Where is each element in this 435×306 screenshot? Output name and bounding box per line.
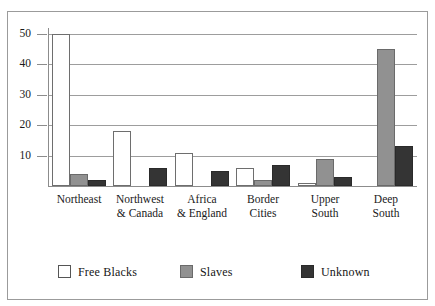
- bar: [377, 49, 395, 186]
- legend-label: Slaves: [200, 265, 233, 280]
- legend-swatch-unknown: [301, 265, 314, 278]
- x-axis-line: [48, 186, 417, 187]
- bar: [52, 34, 70, 186]
- gridline-50: [48, 34, 417, 35]
- y-tick-label-50: 50: [9, 28, 31, 39]
- legend-item: Unknown: [301, 262, 370, 280]
- x-axis-label-line1: Africa: [187, 193, 216, 205]
- y-tick-label-40: 40: [9, 58, 31, 69]
- bar: [175, 153, 193, 186]
- plot-area: 1020304050 NortheastNorthwest& CanadaAfr…: [0, 0, 435, 306]
- tick-mark-30: [37, 95, 47, 96]
- x-axis-label-line1: Northeast: [57, 193, 102, 205]
- legend-swatch-free: [58, 265, 71, 278]
- tick-mark-20: [37, 125, 47, 126]
- bar: [149, 168, 167, 186]
- gridline-40: [48, 64, 417, 65]
- bar: [211, 171, 229, 186]
- bar: [316, 159, 334, 186]
- y-axis-line: [48, 28, 49, 186]
- x-axis-label-line1: Northwest: [116, 193, 164, 205]
- bar: [70, 174, 88, 186]
- x-axis-label-line1: Border: [247, 193, 279, 205]
- legend-item: Slaves: [180, 262, 233, 280]
- y-tick-label-10: 10: [9, 150, 31, 161]
- bar: [334, 177, 352, 186]
- x-axis-label: DeepSouth: [343, 192, 429, 220]
- legend-swatch-slaves: [180, 265, 193, 278]
- legend-label: Unknown: [321, 265, 370, 280]
- x-axis-label-line2: South: [343, 206, 429, 220]
- legend-label: Free Blacks: [78, 265, 137, 280]
- x-axis-label-line1: Upper: [311, 193, 340, 205]
- gridline-10: [48, 156, 417, 157]
- tick-mark-40: [37, 64, 47, 65]
- chart-figure: 1020304050 NortheastNorthwest& CanadaAfr…: [0, 0, 435, 306]
- bar: [236, 168, 254, 186]
- bar: [272, 165, 290, 186]
- gridline-20: [48, 125, 417, 126]
- bar: [395, 146, 413, 186]
- bar: [113, 131, 131, 186]
- tick-mark-10: [37, 156, 47, 157]
- y-tick-label-30: 30: [9, 89, 31, 100]
- y-tick-label-20: 20: [9, 119, 31, 130]
- legend-item: Free Blacks: [58, 262, 137, 280]
- x-axis-label-line1: Deep: [374, 193, 398, 205]
- gridline-30: [48, 95, 417, 96]
- tick-mark-50: [37, 34, 47, 35]
